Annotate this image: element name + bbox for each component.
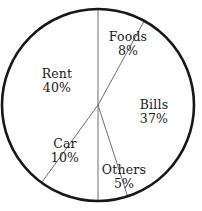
pie-label-name: Foods [109,30,147,44]
pie-label-name: Bills [140,98,169,112]
pie-chart: Foods8%Bills37%Others5%Car10%Rent40% [0,0,202,211]
pie-label-value: 37% [140,112,169,126]
pie-label-name: Car [51,137,79,151]
pie-label-bills: Bills37% [140,98,169,126]
pie-label-value: 5% [102,177,146,191]
pie-label-others: Others5% [102,163,146,191]
pie-label-value: 10% [51,151,79,165]
pie-label-name: Others [102,163,146,177]
pie-label-value: 8% [109,44,147,58]
pie-label-car: Car10% [51,137,79,165]
pie-label-rent: Rent40% [42,67,73,95]
pie-label-name: Rent [42,67,73,81]
pie-label-foods: Foods8% [109,30,147,58]
pie-label-value: 40% [42,81,73,95]
